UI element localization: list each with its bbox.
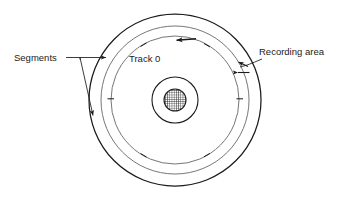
- track-zero-label: Track 0: [129, 53, 160, 64]
- recording-area-label: Recording area: [259, 46, 325, 57]
- disk-diagram-svg: Segments Track 0 Recording area: [0, 0, 348, 204]
- segments-leader-lower: [80, 58, 93, 116]
- rotation-direction-arrow: [177, 39, 197, 40]
- spindle-hole-icon: [164, 89, 186, 111]
- disk-diagram-figure: Segments Track 0 Recording area: [0, 0, 348, 204]
- segments-label: Segments: [14, 52, 57, 63]
